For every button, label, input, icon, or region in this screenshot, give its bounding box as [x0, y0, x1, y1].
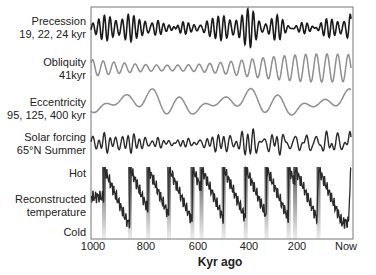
precession-curve: [91, 9, 351, 47]
eccentricity-label: Eccentricity 95, 125, 400 kyr: [7, 96, 86, 122]
solar-label-line1: Solar forcing: [17, 131, 86, 144]
solar-forcing-curve: [91, 129, 351, 155]
temperature-curve: [91, 168, 351, 229]
solar-label-line2: 65°N Summer: [17, 144, 86, 157]
cold-label: Cold: [63, 226, 86, 239]
x-tick-1000: 1000: [81, 240, 105, 252]
eccentricity-label-line1: Eccentricity: [7, 96, 86, 109]
x-tick-200: 200: [288, 240, 306, 252]
x-tick-now: Now: [335, 240, 357, 252]
temperature-label-line1: Reconstructed: [15, 193, 86, 206]
precession-label-line1: Precession: [19, 15, 86, 28]
obliquity-curve: [91, 54, 351, 82]
eccentricity-curve: [91, 89, 351, 115]
x-tick-800: 800: [137, 240, 155, 252]
obliquity-label: Obliquity 41kyr: [43, 56, 86, 82]
solar-forcing-label: Solar forcing 65°N Summer: [17, 131, 86, 157]
obliquity-label-line2: 41kyr: [43, 69, 86, 82]
eccentricity-label-line2: 95, 125, 400 kyr: [7, 109, 86, 122]
precession-label-line2: 19, 22, 24 kyr: [19, 28, 86, 41]
precession-label: Precession 19, 22, 24 kyr: [19, 15, 86, 41]
x-tick-600: 600: [189, 240, 207, 252]
temperature-label-line2: temperature: [15, 206, 86, 219]
x-tick-400: 400: [240, 240, 258, 252]
x-axis-label: Kyr ago: [198, 255, 243, 269]
hot-label: Hot: [69, 167, 86, 180]
temperature-label: Reconstructed temperature: [15, 193, 86, 219]
obliquity-label-line1: Obliquity: [43, 56, 86, 69]
